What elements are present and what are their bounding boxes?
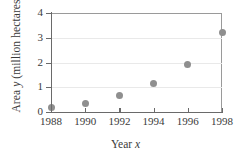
- data-point: [116, 92, 123, 99]
- grid-line: [51, 63, 222, 64]
- x-axis-title: Year x: [0, 138, 251, 150]
- y-axis-tick: [46, 13, 52, 14]
- plot-area: [51, 13, 222, 112]
- grid-line: [51, 87, 222, 88]
- x-axis-tick: [119, 108, 120, 113]
- data-point: [82, 100, 89, 107]
- scatter-chart: Area y (million hectares) 01234 19881990…: [0, 0, 251, 157]
- y-axis-tick-label: 1: [21, 81, 43, 92]
- y-axis-tick-label: 4: [21, 7, 43, 18]
- x-axis-title-text: Year: [111, 138, 135, 150]
- x-axis-line: [50, 112, 223, 113]
- y-axis-tick: [46, 38, 52, 39]
- y-axis-tick: [46, 87, 52, 88]
- x-axis-tick: [85, 108, 86, 113]
- x-axis-tick-label: 1998: [200, 116, 244, 127]
- data-point: [184, 61, 191, 68]
- plot-frame-top: [51, 13, 222, 14]
- data-point: [219, 29, 226, 36]
- x-axis-tick: [154, 108, 155, 113]
- y-axis-tick-label: 3: [21, 32, 43, 43]
- data-point: [150, 80, 157, 87]
- y-axis-tick: [46, 63, 52, 64]
- grid-line: [51, 38, 222, 39]
- y-axis-tick-label: 2: [21, 57, 43, 68]
- x-axis-tick: [188, 108, 189, 113]
- x-axis-title-variable: x: [135, 138, 140, 150]
- x-axis-tick: [51, 108, 52, 113]
- x-axis-tick: [222, 108, 223, 113]
